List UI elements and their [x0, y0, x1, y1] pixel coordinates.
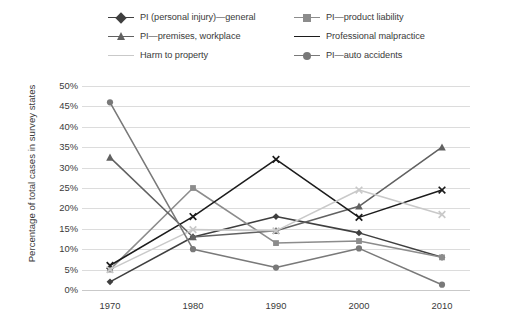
- data-point-square-marker: [356, 238, 362, 244]
- x-tick-label: 1990: [246, 300, 306, 311]
- data-point-circle-marker: [190, 246, 196, 252]
- legend-triangle-icon: [108, 31, 134, 43]
- legend-item-label: Professional malpractice: [326, 31, 425, 42]
- plot-area: [82, 86, 470, 290]
- legend-item-label: PI—product liability: [326, 12, 404, 23]
- y-axis-title: Percentage of total cases in survey stat…: [26, 64, 37, 284]
- x-tick-label: 2010: [412, 300, 472, 311]
- legend-item-label: PI (personal injury)—general: [140, 12, 256, 23]
- x-tick-label: 1980: [163, 300, 223, 311]
- legend-item[interactable]: Professional malpractice: [294, 27, 500, 46]
- data-point-circle-marker: [356, 245, 362, 251]
- legend-diamond-icon: [108, 12, 134, 24]
- data-point-diamond-marker: [356, 229, 363, 236]
- data-point-circle-marker: [273, 264, 279, 270]
- data-point-square-marker: [273, 240, 279, 246]
- line-chart: PI (personal injury)—generalPI—product l…: [0, 0, 509, 335]
- data-point-square-marker: [439, 254, 445, 260]
- y-tick-label: 20%: [38, 202, 78, 213]
- chart-legend: PI (personal injury)—generalPI—product l…: [108, 8, 500, 65]
- data-point-triangle-marker: [106, 154, 114, 161]
- data-point-triangle-marker: [438, 143, 446, 150]
- legend-x-icon: [294, 31, 320, 43]
- series-line: [107, 99, 445, 288]
- data-point-diamond-marker: [107, 278, 114, 285]
- y-tick-label: 10%: [38, 243, 78, 254]
- y-tick-label: 40%: [38, 121, 78, 132]
- legend-circle-icon: [294, 50, 320, 62]
- x-axis-line: [82, 290, 470, 291]
- legend-item-label: Harm to property: [140, 50, 208, 61]
- data-point-x-marker: [190, 213, 197, 220]
- y-tick-label: 30%: [38, 162, 78, 173]
- legend-item[interactable]: PI—product liability: [294, 8, 500, 27]
- legend-item[interactable]: Harm to property: [108, 46, 294, 65]
- data-point-square-marker: [190, 185, 196, 191]
- x-tick-label: 2000: [329, 300, 389, 311]
- y-tick-label: 0%: [38, 284, 78, 295]
- y-tick-label: 25%: [38, 182, 78, 193]
- data-point-circle-marker: [439, 282, 445, 288]
- legend-item[interactable]: PI—premises, workplace: [108, 27, 294, 46]
- legend-x-icon: [108, 50, 134, 62]
- legend-square-icon: [294, 12, 320, 24]
- legend-item[interactable]: PI (personal injury)—general: [108, 8, 294, 27]
- data-point-diamond-marker: [273, 213, 280, 220]
- y-tick-label: 35%: [38, 141, 78, 152]
- legend-item-label: PI—premises, workplace: [140, 31, 241, 42]
- series-line: [107, 187, 446, 273]
- series-line: [107, 156, 446, 269]
- legend-item-label: PI—auto accidents: [326, 50, 402, 61]
- y-tick-label: 15%: [38, 223, 78, 234]
- y-tick-label: 45%: [38, 100, 78, 111]
- x-tick-label: 1970: [80, 300, 140, 311]
- y-tick-label: 50%: [38, 80, 78, 91]
- data-point-circle-marker: [107, 99, 113, 105]
- series-layer: [82, 86, 470, 290]
- y-tick-label: 5%: [38, 264, 78, 275]
- data-point-x-marker: [273, 156, 280, 163]
- legend-item[interactable]: PI—auto accidents: [294, 46, 500, 65]
- series-line: [106, 143, 446, 240]
